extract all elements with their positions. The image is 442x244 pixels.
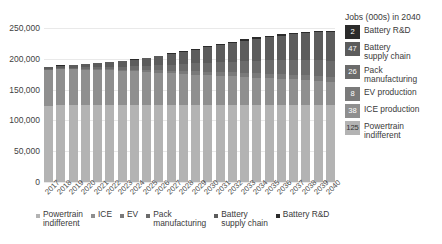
bar-segment[interactable] bbox=[228, 62, 237, 73]
bar-segment[interactable] bbox=[240, 105, 249, 182]
right-legend-item[interactable]: 125Powertrain indifferent bbox=[345, 121, 442, 140]
bar-column[interactable] bbox=[69, 28, 78, 182]
bar-column[interactable] bbox=[277, 28, 286, 182]
bar-segment[interactable] bbox=[191, 63, 200, 71]
bar-segment[interactable] bbox=[228, 43, 237, 62]
bar-segment[interactable] bbox=[216, 62, 225, 72]
bar-segment[interactable] bbox=[203, 47, 212, 63]
bar-segment[interactable] bbox=[314, 81, 323, 105]
bar-segment[interactable] bbox=[289, 34, 298, 60]
bar-column[interactable] bbox=[265, 28, 274, 182]
bar-segment[interactable] bbox=[252, 78, 261, 105]
bar-segment[interactable] bbox=[301, 105, 310, 182]
bar-segment[interactable] bbox=[142, 105, 151, 182]
bar-segment[interactable] bbox=[179, 74, 188, 105]
bar-segment[interactable] bbox=[216, 76, 225, 105]
bottom-legend-item[interactable]: Pack manufacturing bbox=[146, 210, 206, 229]
bar-segment[interactable] bbox=[277, 36, 286, 61]
bar-segment[interactable] bbox=[326, 82, 335, 105]
bar-segment[interactable] bbox=[216, 45, 225, 62]
bar-segment[interactable] bbox=[179, 64, 188, 71]
bar-segment[interactable] bbox=[56, 105, 65, 182]
bar-column[interactable] bbox=[56, 28, 65, 182]
bar-segment[interactable] bbox=[179, 105, 188, 182]
bar-column[interactable] bbox=[44, 28, 53, 182]
bar-column[interactable] bbox=[203, 28, 212, 182]
bar-column[interactable] bbox=[301, 28, 310, 182]
bar-segment[interactable] bbox=[167, 73, 176, 105]
bar-segment[interactable] bbox=[326, 105, 335, 182]
bottom-legend-item[interactable]: Powertrain indifferent bbox=[36, 210, 83, 229]
bottom-legend-item[interactable]: EV bbox=[120, 210, 138, 219]
bar-segment[interactable] bbox=[240, 41, 249, 62]
bar-segment[interactable] bbox=[69, 105, 78, 182]
bar-segment[interactable] bbox=[203, 63, 212, 72]
right-legend-item[interactable]: 47Battery supply chain bbox=[345, 42, 442, 61]
bar-column[interactable] bbox=[81, 28, 90, 182]
right-legend-item[interactable]: 26Pack manufacturing bbox=[345, 65, 442, 84]
bar-segment[interactable] bbox=[203, 75, 212, 105]
bar-segment[interactable] bbox=[203, 105, 212, 182]
bar-segment[interactable] bbox=[265, 105, 274, 182]
bar-column[interactable] bbox=[252, 28, 261, 182]
bar-segment[interactable] bbox=[240, 77, 249, 105]
bar-segment[interactable] bbox=[93, 70, 102, 105]
bar-segment[interactable] bbox=[81, 105, 90, 182]
bar-segment[interactable] bbox=[142, 58, 151, 66]
bar-segment[interactable] bbox=[289, 105, 298, 182]
bar-segment[interactable] bbox=[167, 105, 176, 182]
bottom-legend-item[interactable]: Battery R&D bbox=[276, 210, 330, 219]
bar-segment[interactable] bbox=[179, 52, 188, 64]
bar-segment[interactable] bbox=[301, 80, 310, 105]
bar-column[interactable] bbox=[228, 28, 237, 182]
bar-segment[interactable] bbox=[154, 73, 163, 105]
bar-segment[interactable] bbox=[191, 75, 200, 105]
bar-segment[interactable] bbox=[154, 56, 163, 65]
bar-segment[interactable] bbox=[44, 70, 53, 106]
bar-column[interactable] bbox=[142, 28, 151, 182]
bar-segment[interactable] bbox=[314, 105, 323, 182]
bar-segment[interactable] bbox=[216, 105, 225, 182]
bar-segment[interactable] bbox=[289, 60, 298, 75]
bar-segment[interactable] bbox=[277, 60, 286, 74]
bar-segment[interactable] bbox=[314, 60, 323, 76]
bar-column[interactable] bbox=[167, 28, 176, 182]
bar-segment[interactable] bbox=[240, 61, 249, 73]
bottom-legend-item[interactable]: Battery supply chain bbox=[214, 210, 268, 229]
bar-segment[interactable] bbox=[69, 69, 78, 105]
bar-segment[interactable] bbox=[93, 105, 102, 182]
bar-segment[interactable] bbox=[191, 50, 200, 64]
bar-column[interactable] bbox=[289, 28, 298, 182]
bar-segment[interactable] bbox=[314, 32, 323, 60]
bar-column[interactable] bbox=[191, 28, 200, 182]
bar-column[interactable] bbox=[216, 28, 225, 182]
bar-segment[interactable] bbox=[228, 76, 237, 105]
bar-segment[interactable] bbox=[289, 79, 298, 105]
bar-segment[interactable] bbox=[265, 60, 274, 73]
bottom-legend-item[interactable]: ICE bbox=[91, 210, 112, 219]
bar-column[interactable] bbox=[105, 28, 114, 182]
bar-column[interactable] bbox=[240, 28, 249, 182]
bar-segment[interactable] bbox=[142, 72, 151, 105]
bar-column[interactable] bbox=[130, 28, 139, 182]
bar-segment[interactable] bbox=[105, 105, 114, 182]
bar-segment[interactable] bbox=[265, 37, 274, 60]
bar-segment[interactable] bbox=[277, 105, 286, 182]
bar-segment[interactable] bbox=[81, 70, 90, 106]
bar-segment[interactable] bbox=[130, 105, 139, 182]
bar-segment[interactable] bbox=[167, 54, 176, 65]
bar-segment[interactable] bbox=[301, 33, 310, 60]
bar-segment[interactable] bbox=[44, 106, 53, 182]
bar-segment[interactable] bbox=[277, 79, 286, 105]
bar-segment[interactable] bbox=[105, 70, 114, 105]
right-legend-item[interactable]: 8EV production bbox=[345, 87, 442, 101]
bar-segment[interactable] bbox=[56, 69, 65, 105]
bar-column[interactable] bbox=[154, 28, 163, 182]
bar-segment[interactable] bbox=[154, 105, 163, 182]
right-legend-item[interactable]: 2Battery R&D bbox=[345, 25, 442, 39]
bar-segment[interactable] bbox=[326, 61, 335, 77]
bar-column[interactable] bbox=[93, 28, 102, 182]
right-legend-item[interactable]: 38ICE production bbox=[345, 104, 442, 118]
bar-segment[interactable] bbox=[191, 105, 200, 182]
bar-segment[interactable] bbox=[265, 78, 274, 105]
